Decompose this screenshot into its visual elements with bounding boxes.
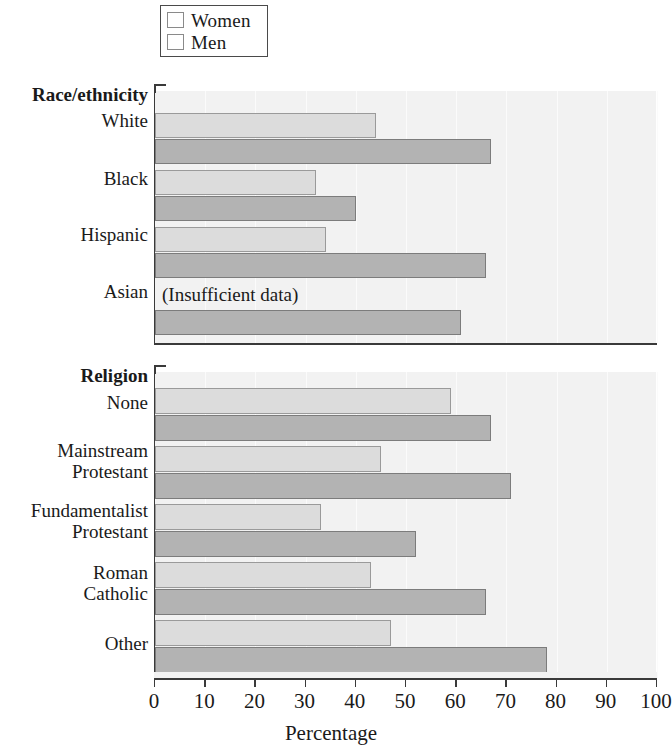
legend-item-women: Women bbox=[167, 9, 261, 31]
x-tick-20 bbox=[254, 678, 255, 687]
category-label-black: Black bbox=[0, 168, 148, 189]
x-tick-70 bbox=[505, 678, 506, 687]
legend-swatch-men bbox=[167, 34, 184, 50]
x-tick-60 bbox=[455, 678, 456, 687]
gridline-70 bbox=[506, 372, 507, 678]
bar-men-none bbox=[155, 415, 491, 441]
bar-men-mainstream-protestant bbox=[155, 473, 511, 499]
legend-label-women: Women bbox=[191, 11, 251, 30]
gridline-90 bbox=[607, 372, 608, 678]
bar-women-roman-catholic bbox=[155, 562, 371, 588]
category-label-none: None bbox=[0, 392, 148, 413]
category-label-white: White bbox=[0, 110, 148, 131]
axis-cap-arm-race bbox=[154, 84, 166, 86]
bar-women-none bbox=[155, 388, 451, 414]
x-tick-label-80: 80 bbox=[545, 690, 566, 712]
x-tick-label-70: 70 bbox=[495, 690, 516, 712]
category-label-fundamentalist-protestant: FundamentalistProtestant bbox=[0, 500, 148, 542]
x-tick-0 bbox=[154, 678, 155, 687]
gridline-70 bbox=[506, 91, 507, 343]
x-tick-10 bbox=[204, 678, 205, 687]
gridline-90 bbox=[607, 91, 608, 343]
category-label-mainstream-protestant: MainstreamProtestant bbox=[0, 440, 148, 482]
x-tick-label-40: 40 bbox=[344, 690, 365, 712]
bar-women-hispanic bbox=[155, 227, 326, 252]
axis-cap-arm-religion bbox=[154, 365, 166, 367]
chart-legend: Women Men bbox=[160, 5, 268, 57]
x-tick-90 bbox=[606, 678, 607, 687]
x-tick-label-20: 20 bbox=[244, 690, 265, 712]
x-axis: 0102030405060708090100 Percentage bbox=[0, 678, 662, 756]
bar-women-black bbox=[155, 170, 316, 195]
x-tick-30 bbox=[305, 678, 306, 687]
gridline-80 bbox=[557, 372, 558, 678]
x-tick-label-0: 0 bbox=[149, 690, 160, 712]
bar-women-fundamentalist-protestant bbox=[155, 504, 321, 530]
x-tick-100 bbox=[656, 678, 657, 687]
group-title-religion: Religion bbox=[0, 365, 148, 386]
bar-women-white bbox=[155, 113, 376, 138]
gridline-50 bbox=[406, 91, 407, 343]
chart-panel-religion bbox=[154, 372, 656, 678]
bar-men-fundamentalist-protestant bbox=[155, 531, 416, 557]
x-tick-40 bbox=[355, 678, 356, 687]
bar-men-asian bbox=[155, 310, 461, 335]
gridline-80 bbox=[557, 91, 558, 343]
bar-men-black bbox=[155, 196, 356, 221]
gridline-100 bbox=[657, 91, 658, 343]
chart-panel-race-ethnicity: (Insufficient data) bbox=[154, 91, 656, 343]
bar-men-white bbox=[155, 139, 491, 164]
legend-swatch-women bbox=[167, 12, 184, 28]
gridline-100 bbox=[657, 372, 658, 678]
bar-men-hispanic bbox=[155, 253, 486, 278]
category-label-roman-catholic: RomanCatholic bbox=[0, 562, 148, 604]
x-tick-label-50: 50 bbox=[395, 690, 416, 712]
x-tick-label-90: 90 bbox=[595, 690, 616, 712]
bar-women-mainstream-protestant bbox=[155, 446, 381, 472]
bar-men-other bbox=[155, 647, 547, 673]
x-tick-label-100: 100 bbox=[640, 690, 672, 712]
x-tick-label-30: 30 bbox=[294, 690, 315, 712]
x-tick-label-60: 60 bbox=[445, 690, 466, 712]
x-tick-label-10: 10 bbox=[194, 690, 215, 712]
x-axis-title: Percentage bbox=[0, 722, 662, 744]
category-label-other: Other bbox=[0, 633, 148, 654]
axis-baseline-race bbox=[154, 343, 657, 345]
x-tick-50 bbox=[405, 678, 406, 687]
category-label-asian: Asian bbox=[0, 281, 148, 302]
bar-women-other bbox=[155, 620, 391, 646]
legend-label-men: Men bbox=[191, 33, 226, 52]
category-label-hispanic: Hispanic bbox=[0, 224, 148, 245]
x-tick-80 bbox=[556, 678, 557, 687]
bar-men-roman-catholic bbox=[155, 589, 486, 615]
legend-item-men: Men bbox=[167, 31, 261, 53]
annotation-insufficient-data: (Insufficient data) bbox=[162, 285, 298, 304]
group-title-race-ethnicity: Race/ethnicity bbox=[0, 84, 148, 105]
gridline-60 bbox=[456, 91, 457, 343]
